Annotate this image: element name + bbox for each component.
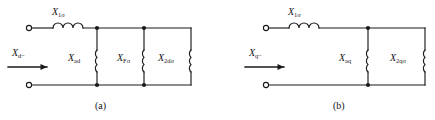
- terminal-a-bottom: [26, 82, 31, 87]
- current-arrow-a-head: [41, 64, 48, 70]
- label-input-reactance-b: Xq−: [249, 48, 262, 58]
- shunt-inductor-a-ad: [95, 50, 97, 72]
- label-shunt-reactance-b-2qsigma: X2qσ: [390, 53, 406, 63]
- label-shunt-reactance-a-2dsigma: X2dσ: [158, 53, 174, 63]
- series-inductor-b: [289, 23, 319, 28]
- node-dot-a2: [95, 83, 99, 87]
- label-input-reactance-a: Xd−: [12, 48, 25, 58]
- circuit-schematic-svg: [0, 0, 435, 120]
- shunt-inductor-a-2dsigma: [189, 50, 191, 72]
- label-shunt-reactance-b-aq: Xaq: [339, 53, 351, 63]
- series-inductor-a: [53, 23, 83, 28]
- terminal-b-top: [263, 25, 268, 30]
- current-arrow-b-head: [278, 64, 285, 70]
- label-series-reactance-a: X1σ: [52, 7, 65, 17]
- node-dot-a1: [95, 26, 99, 30]
- label-series-reactance-b: X1σ: [288, 7, 301, 17]
- shunt-inductor-a-fsigma: [142, 50, 144, 72]
- node-dot-a3: [142, 26, 146, 30]
- terminal-b-bottom: [263, 82, 268, 87]
- caption-b: (b): [333, 101, 345, 111]
- node-dot-a4: [142, 83, 146, 87]
- node-dot-b1: [366, 26, 370, 30]
- terminal-a-top: [26, 25, 31, 30]
- figure-canvas: X1σ Xd− Xad XFσ X2dσ (a) X1σ Xq− Xaq X2q…: [0, 0, 435, 120]
- label-shunt-reactance-a-ad: Xad: [68, 53, 80, 63]
- shunt-inductor-b-aq: [366, 50, 368, 72]
- node-dot-b2: [366, 83, 370, 87]
- caption-a: (a): [95, 101, 106, 111]
- shunt-inductor-b-2qsigma: [423, 50, 425, 72]
- label-shunt-reactance-a-fsigma: XFσ: [117, 53, 130, 63]
